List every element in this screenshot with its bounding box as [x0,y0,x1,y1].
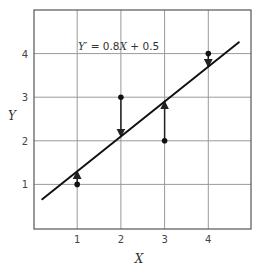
y-tick-label: 1 [22,179,28,190]
data-point [162,138,168,144]
x-tick-label: 4 [205,234,211,245]
regression-line [42,42,239,199]
x-axis-label: X [134,252,144,266]
y-tick-label: 3 [22,92,28,103]
x-tick-label: 1 [74,234,80,245]
data-point [118,94,124,100]
y-tick-label: 4 [22,49,28,60]
x-tick-label: 2 [118,234,124,245]
tick-labels: 12341234 [22,49,212,245]
x-tick-label: 3 [161,234,167,245]
data-point [206,51,212,57]
regression-equation: Y′ = 0.8X + 0.5 [78,40,159,52]
regression-chart: 12341234 Y′ = 0.8X + 0.5 Y X [0,0,257,270]
data-point [74,182,80,188]
y-axis-label: Y [8,109,17,123]
y-tick-label: 2 [22,136,28,147]
